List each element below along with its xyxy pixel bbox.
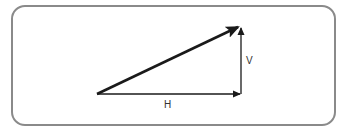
vector-diagram: [0, 0, 340, 130]
horizontal-label: H: [164, 99, 171, 110]
vertical-label: V: [246, 55, 253, 66]
resultant-vector-arrow: [97, 27, 238, 94]
